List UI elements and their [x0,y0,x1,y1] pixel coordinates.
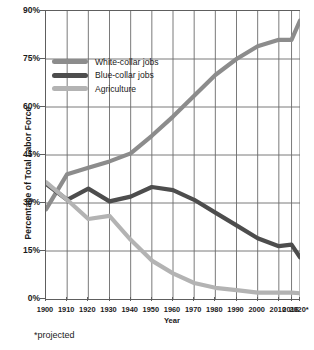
x-tick-mark [87,297,88,301]
x-tick-mark [109,297,110,301]
y-tick-label: 60% [0,101,40,111]
plot-area [45,10,300,300]
x-tick-label: 1960 [164,305,180,314]
x-tick-label: 1970 [185,305,201,314]
x-tick-label: 1910 [58,305,74,314]
legend-swatch [52,59,88,64]
x-tick-label: 1950 [143,305,159,314]
y-tick-label: 30% [0,197,40,207]
x-tick-mark [172,297,173,301]
x-tick-label: 1980 [206,305,222,314]
x-tick-mark [291,297,292,301]
x-tick-label: 1930 [100,305,116,314]
chart-legend: White-collar jobsBlue-collar jobsAgricul… [52,55,192,96]
legend-label: Blue-collar jobs [95,70,154,80]
x-tick-label: 1900 [37,305,53,314]
legend-swatch [52,73,88,78]
x-tick-mark [214,297,215,301]
x-tick-mark [66,297,67,301]
x-tick-mark [299,297,300,301]
x-tick-mark [130,297,131,301]
x-tick-mark [193,297,194,301]
x-tick-label: 1920 [79,305,95,314]
legend-item: Blue-collar jobs [52,69,192,83]
y-tick-label: 75% [0,53,40,63]
x-tick-mark [45,297,46,301]
y-tick-label: 15% [0,245,40,255]
x-axis-title: Year [45,316,299,325]
x-tick-label: 1990 [227,305,243,314]
x-tick-mark [257,297,258,301]
legend-item: White-collar jobs [52,55,192,69]
legend-label: Agriculture [95,84,136,94]
x-tick-mark [151,297,152,301]
x-tick-label: 2000 [248,305,264,314]
chart-footnote: *projected [34,330,75,340]
y-tick-label: 45% [0,149,40,159]
x-axis-tick-labels: 1900191019201930194019501960197019801990… [45,301,303,315]
x-tick-label: 1940 [121,305,137,314]
y-tick-label: 0% [0,293,40,303]
y-tick-label: 90% [0,5,40,15]
legend-swatch [52,86,88,91]
x-tick-mark [236,297,237,301]
line-chart: Percentage of Total Labor Force 0%15%30%… [0,0,314,350]
x-tick-label: 2020* [289,305,308,314]
x-tick-mark [278,297,279,301]
legend-item: Agriculture [52,82,192,96]
legend-label: White-collar jobs [95,57,159,67]
